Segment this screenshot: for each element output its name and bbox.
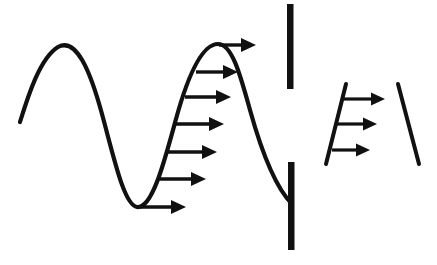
wave-flow-diagram [0, 0, 437, 265]
lower-boundary-bar [288, 162, 295, 250]
upper-boundary-bar [287, 4, 294, 89]
figure-background [0, 0, 437, 265]
figure-canvas [0, 0, 437, 265]
